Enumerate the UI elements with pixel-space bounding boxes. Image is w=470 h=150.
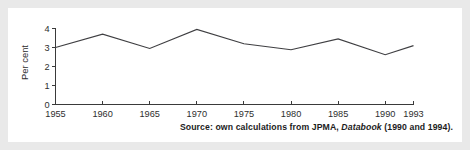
x-tick-label: 1985 [328,109,348,119]
y-axis-ticks [52,29,56,105]
x-tick-label: 1960 [92,109,112,119]
axes-group [56,29,414,105]
x-axis-ticks [56,101,414,105]
x-tick-label: 1990 [375,109,395,119]
source-note: Source: own calculations from JPMA, Data… [180,122,453,132]
x-tick-label: 1965 [139,109,159,119]
y-tick-label: 2 [44,62,49,72]
source-prefix: Source: own calculations from JPMA, [180,122,339,132]
line-chart: 01234 1955196019651970197519801985199019… [8,8,462,120]
y-axis-tick-labels: 01234 [44,24,49,110]
figure-panel: 01234 1955196019651970197519801985199019… [8,8,462,142]
y-tick-label: 4 [44,24,49,34]
source-suffix: (1990 and 1994). [384,122,453,132]
y-axis-title: Per cent [19,45,30,80]
x-tick-label: 1970 [187,109,207,119]
y-tick-label: 3 [44,43,49,53]
x-tick-label: 1975 [234,109,254,119]
source-publication-title: Databook [341,122,381,132]
plot-area: 01234 1955196019651970197519801985199019… [8,8,462,120]
data-series-line [56,29,414,54]
x-tick-label: 1955 [45,109,65,119]
x-axis-tick-labels: 195519601965197019751980198519901993 [45,109,423,119]
x-tick-label: 1993 [403,109,423,119]
figure-container: 01234 1955196019651970197519801985199019… [0,0,470,150]
y-tick-label: 1 [44,81,49,91]
x-tick-label: 1980 [281,109,301,119]
